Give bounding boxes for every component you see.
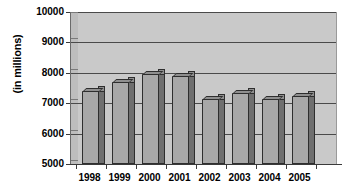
y-axis-tick-label: 10000 xyxy=(30,7,64,17)
bar-front-face xyxy=(202,99,219,164)
bar-series xyxy=(71,12,337,164)
bar xyxy=(262,99,279,164)
plot-right-edge xyxy=(336,12,337,164)
x-axis-tick xyxy=(76,165,77,169)
bar-front-face xyxy=(292,96,309,164)
y-axis-tick-label: 9000 xyxy=(30,37,64,47)
bar-front-face xyxy=(262,99,279,164)
y-axis-tick xyxy=(66,103,70,104)
x-axis-tick xyxy=(106,165,107,169)
bar-front-face xyxy=(232,93,249,164)
bar xyxy=(202,99,219,164)
bar-front-face xyxy=(142,74,159,164)
x-axis-tick xyxy=(196,165,197,169)
y-axis-tick-label: 7000 xyxy=(30,98,64,108)
bar xyxy=(292,96,309,164)
y-axis-tick-labels: 1000090008000700060005000 xyxy=(30,0,64,195)
y-axis-tick xyxy=(66,12,70,13)
x-axis-tick-label: 1999 xyxy=(103,172,137,184)
bar xyxy=(112,82,129,164)
x-axis-tick xyxy=(136,165,137,169)
x-axis-tick-label: 2005 xyxy=(283,172,317,184)
x-axis-tick-label: 1998 xyxy=(73,172,107,184)
bar-side-face xyxy=(249,88,255,164)
bar-front-face xyxy=(172,76,189,164)
x-axis-line xyxy=(70,164,342,165)
bar-side-face xyxy=(189,71,195,164)
x-axis-tick-label: 2001 xyxy=(163,172,197,184)
chart-figure: (in millions) 1000090008000700060005000 … xyxy=(0,0,350,195)
x-axis-tick xyxy=(226,165,227,169)
bar-front-face xyxy=(112,82,129,164)
x-axis-tick xyxy=(166,165,167,169)
bar-side-face xyxy=(129,77,135,164)
y-axis-tick-label: 8000 xyxy=(30,68,64,78)
bar xyxy=(142,74,159,164)
y-axis-tick xyxy=(66,42,70,43)
bar-front-face xyxy=(82,91,99,164)
bar-side-face xyxy=(279,94,285,164)
x-axis-tick xyxy=(286,165,287,169)
bar-side-face xyxy=(99,86,105,164)
y-axis-tick xyxy=(66,164,70,165)
plot-area xyxy=(70,12,337,164)
bar xyxy=(232,93,249,164)
bar-side-face xyxy=(159,69,165,164)
bar xyxy=(82,91,99,164)
y-axis-tick-label: 6000 xyxy=(30,129,64,139)
x-axis-tick xyxy=(316,165,317,169)
x-axis-tick-label: 2004 xyxy=(253,172,287,184)
x-axis-tick-label: 2000 xyxy=(133,172,167,184)
bar xyxy=(172,76,189,164)
y-axis-title: (in millions) xyxy=(11,19,27,109)
y-axis-tick xyxy=(66,134,70,135)
x-axis-tick-label: 2002 xyxy=(193,172,227,184)
x-axis-tick xyxy=(256,165,257,169)
x-axis-tick-label: 2003 xyxy=(223,172,257,184)
y-axis-tick xyxy=(66,73,70,74)
bar-side-face xyxy=(219,94,225,164)
y-axis-tick-label: 5000 xyxy=(30,159,64,169)
bar-side-face xyxy=(309,91,315,164)
